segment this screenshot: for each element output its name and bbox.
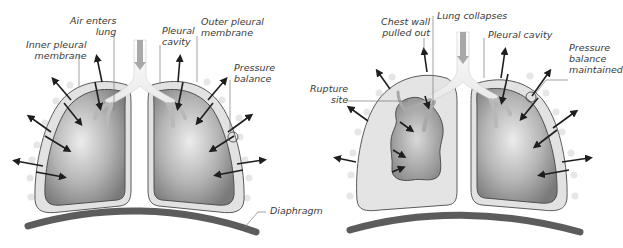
label-inner-pleural-membrane: Inner pleural membrane [26,39,87,61]
label-chest-wall-pulled-out: Chest wall pulled out [381,16,430,38]
label-pressure-balance: Pressure balance [234,62,275,84]
label-lung-collapses: Lung collapses [437,10,507,21]
label-line: maintained [569,64,623,75]
label-line: pulled out [381,27,430,38]
label-line: Air enters [70,15,116,26]
label-line: Inner pleural [26,39,87,50]
label-line: Outer pleural [201,16,264,27]
label-outer-pleural-membrane: Outer pleural membrane [201,16,264,38]
label-line: Pressure [569,42,623,53]
normal-lung-panel [16,35,266,232]
label-diaphragm: Diaphragm [270,205,323,216]
label-line: cavity [162,36,195,47]
label-pleural-cavity-2: Pleural cavity [488,29,552,40]
label-line: Pleural [162,25,195,36]
diaphragm-right [350,215,580,232]
label-line: balance [569,53,623,64]
label-line: membrane [26,50,87,61]
label-line: membrane [201,27,264,38]
label-pleural-cavity: Pleural cavity [162,25,195,47]
collapsed-lung [391,97,443,180]
label-line: lung [70,26,116,37]
label-air-enters-lung: Air enters lung [70,15,116,37]
label-line: Pressure [234,62,275,73]
label-line: Rupture [310,83,348,94]
label-line: balance [234,73,275,84]
diaphragm-left [28,211,256,232]
label-line: Chest wall [381,16,430,27]
label-pressure-balance-maintained: Pressure balance maintained [569,42,623,75]
label-line: site [310,94,348,105]
label-rupture-site: Rupture site [310,83,348,105]
collapsed-lung-panel [337,16,589,232]
